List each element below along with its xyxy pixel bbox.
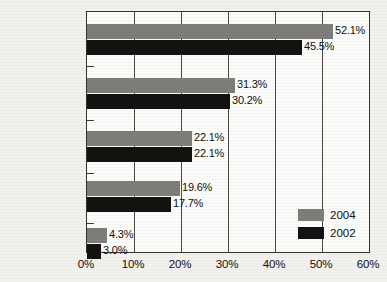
bar-billing-2004 (87, 24, 333, 39)
xtick-label-20: 20% (160, 258, 200, 270)
xtick-label-50: 50% (301, 258, 341, 270)
bar-billing-2002 (87, 40, 302, 55)
bar-value-register-disb-2004: 4.3% (107, 227, 133, 242)
bar-payroll-2004 (87, 181, 180, 196)
bar-group-billing: 52.1% 45.5% (87, 24, 369, 55)
bar-value-billing-2004: 52.1% (333, 23, 365, 38)
plot-area: 52.1% 45.5% 31.3% 30.2% 22.1% 22.1% 19.6… (86, 11, 370, 253)
legend-label-2004: 2004 (330, 208, 356, 222)
xtick-label-30: 30% (207, 258, 247, 270)
axis-tick-3 (87, 173, 94, 174)
bar-value-register-disb-2002: 3.0% (101, 243, 127, 258)
legend-swatch-2002 (298, 227, 324, 239)
bar-value-expense-reimb-2002: 22.1% (192, 146, 224, 161)
axis-tick-4 (87, 223, 94, 224)
bar-value-check-tamp-2004: 31.3% (235, 77, 267, 92)
axis-tick-2 (87, 120, 94, 121)
horizontal-bar-chart: Billing Check tamp Expense reimb Payroll… (0, 0, 387, 282)
xtick-label-60: 60% (348, 258, 387, 270)
bar-value-billing-2002: 45.5% (302, 39, 334, 54)
bar-group-check-tamp: 31.3% 30.2% (87, 78, 369, 109)
bar-register-disb-2004 (87, 228, 107, 243)
xtick-label-0: 0% (66, 258, 106, 270)
bar-value-payroll-2004: 19.6% (180, 180, 212, 195)
bar-value-payroll-2002: 17.7% (171, 196, 203, 211)
legend-entry-2004: 2004 (298, 208, 364, 223)
bar-register-disb-2002 (87, 244, 101, 259)
bar-group-expense-reimb: 22.1% 22.1% (87, 131, 369, 162)
legend-label-2002: 2002 (330, 226, 356, 240)
bar-check-tamp-2002 (87, 94, 230, 109)
bar-value-expense-reimb-2004: 22.1% (192, 130, 224, 145)
chart-legend: 2004 2002 (298, 208, 364, 244)
axis-tick-1 (87, 66, 94, 67)
bar-payroll-2002 (87, 197, 171, 212)
bar-expense-reimb-2002 (87, 147, 192, 162)
bar-check-tamp-2004 (87, 78, 235, 93)
legend-swatch-2004 (298, 209, 324, 221)
bar-value-check-tamp-2002: 30.2% (230, 93, 262, 108)
xtick-label-40: 40% (254, 258, 294, 270)
bar-expense-reimb-2004 (87, 131, 192, 146)
legend-entry-2002: 2002 (298, 226, 364, 241)
xtick-label-10: 10% (113, 258, 153, 270)
